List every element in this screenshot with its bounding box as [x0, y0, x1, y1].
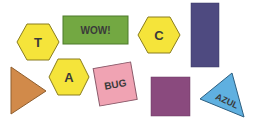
rect-wow-label: WOW! [81, 25, 111, 36]
hexagon-c-label: C [154, 28, 164, 43]
rect-purple[interactable] [191, 3, 219, 67]
rect-bug[interactable]: BUG [93, 62, 137, 106]
square-mauve[interactable] [151, 77, 190, 116]
hexagon-t[interactable]: T [17, 24, 59, 60]
triangle-azul[interactable]: AZUL [200, 73, 244, 117]
hexagon-t-label: T [34, 35, 42, 50]
hexagon-a-label: A [64, 70, 74, 85]
shapes-canvas: T WOW! C A BUG AZUL [0, 0, 255, 124]
hexagon-a[interactable]: A [49, 59, 89, 95]
triangle-orange[interactable] [11, 67, 46, 114]
rect-wow[interactable]: WOW! [63, 16, 128, 44]
hexagon-c[interactable]: C [138, 17, 180, 53]
